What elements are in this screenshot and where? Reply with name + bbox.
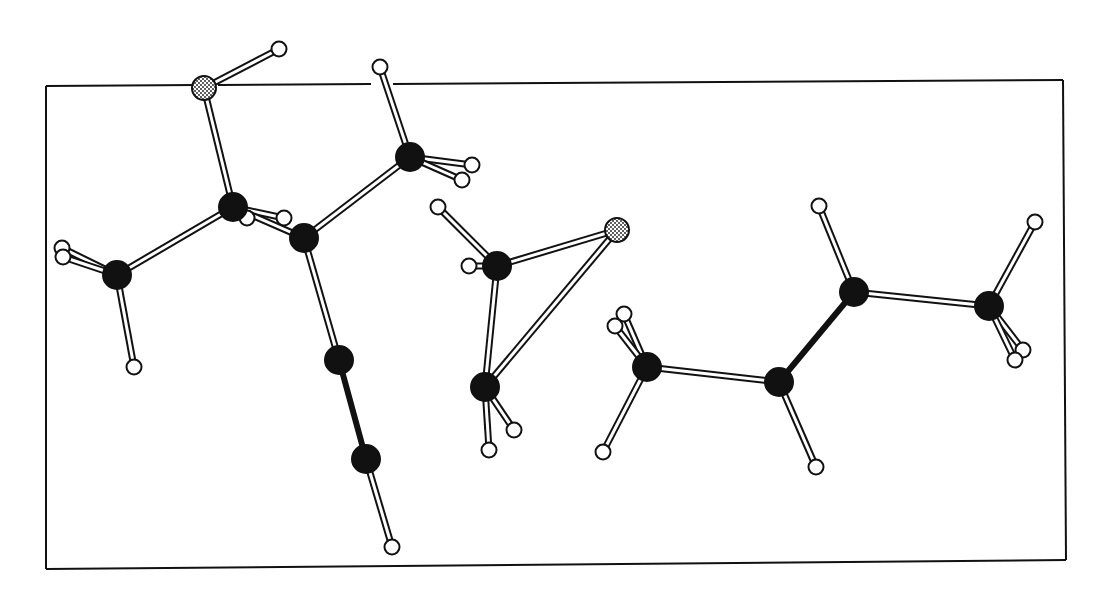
hydrogen-atom-H13 (482, 443, 497, 458)
hydrogen-atom-H5 (56, 250, 71, 265)
bonds (62, 49, 1035, 547)
molecular-diagram (0, 0, 1109, 592)
bond-C2-C5 (304, 238, 339, 360)
carbon-atom-C12 (975, 292, 1003, 320)
frame-edge-top (393, 80, 1063, 84)
carbon-atom-C7 (483, 252, 511, 280)
hydrogen-atom-H12 (462, 259, 477, 274)
frame-edge-right (1063, 80, 1066, 560)
bond-C9-C10 (647, 367, 779, 382)
hydrogen-atom-H9 (455, 173, 470, 188)
hydrogen-atom-H8 (465, 158, 480, 173)
hydrogen-atom-H1 (272, 42, 287, 57)
bond-C7-C8 (485, 266, 497, 387)
frame-edge-top (46, 85, 197, 86)
carbon-atom-C5 (325, 346, 353, 374)
frame-edge-top (218, 84, 371, 85)
frame-edge-bottom (46, 560, 1066, 569)
hydrogen-atom-H7 (373, 60, 388, 75)
hydrogen-atom-H19 (812, 199, 827, 214)
carbon-atom-C11 (840, 278, 868, 306)
hydrogen-atom-H3 (277, 211, 292, 226)
hydrogen-atom-H11 (431, 200, 446, 215)
hydrogen-atom-H20 (1028, 215, 1043, 230)
carbon-atom-C3 (103, 261, 131, 289)
carbon-atom-C6 (352, 445, 380, 473)
carbon-atom-C10 (765, 368, 793, 396)
hydrogen-atom-H17 (596, 445, 611, 460)
unit-cell-frame (46, 80, 1066, 569)
hydrogen-atom-H18 (809, 460, 824, 475)
carbon-atom-C4 (396, 143, 424, 171)
heteroatom-X1 (192, 76, 216, 100)
bond-C1-C3 (117, 207, 233, 275)
heteroatom-X2 (605, 218, 629, 242)
bond-C11-C12 (854, 292, 989, 306)
hydrogen-atom-H10 (385, 540, 400, 555)
molecule-canvas (0, 0, 1109, 592)
bond-C2-C4 (304, 157, 410, 238)
carbon-atom-C2 (290, 224, 318, 252)
carbon-atom-C8 (471, 373, 499, 401)
bond-C5-C6 (339, 360, 366, 459)
bond-X1-C1 (204, 88, 233, 207)
carbon-atom-C1 (219, 193, 247, 221)
carbon-atom-C9 (633, 353, 661, 381)
hydrogen-atom-H22 (1008, 353, 1023, 368)
hydrogen-atom-H14 (507, 423, 522, 438)
bond-C10-C11 (779, 292, 854, 382)
hydrogen-atom-H16 (608, 319, 623, 334)
hydrogen-atom-H6 (127, 360, 142, 375)
